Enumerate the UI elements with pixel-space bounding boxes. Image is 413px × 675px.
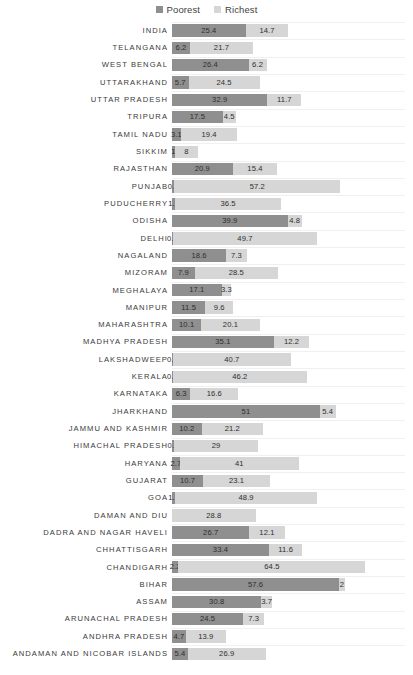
bar-segment-poorest[interactable]: 26.4 [172, 59, 249, 71]
bar-area: 0.346.2 [172, 368, 413, 385]
bar-row: CHANDIGARH2.264.5 [0, 559, 413, 576]
bar-segment-richest[interactable]: 57.2 [174, 180, 340, 192]
bar-segment-richest[interactable]: 5.4 [320, 405, 336, 417]
bar-segment-poorest[interactable]: 39.9 [172, 215, 288, 227]
bar-segment-richest[interactable]: 11.7 [267, 94, 301, 106]
bar-segment-poorest[interactable]: 57.6 [172, 578, 339, 590]
bar-row: GOA1.148.9 [0, 489, 413, 506]
category-label: WEST BENGAL [0, 61, 168, 69]
bar-stack: 10.723.1 [172, 475, 270, 487]
bar-segment-richest[interactable]: 4.8 [288, 215, 302, 227]
bar-row: BIHAR57.62 [0, 576, 413, 593]
bar-area: 33.411.6 [172, 541, 413, 558]
bar-segment-poorest[interactable]: 6.2 [172, 42, 190, 54]
bar-segment-richest[interactable]: 13.9 [186, 630, 226, 642]
bar-row: GUJARAT10.723.1 [0, 472, 413, 489]
bar-segment-poorest[interactable]: 30.8 [172, 596, 261, 608]
bar-stack: 28.8 [172, 509, 256, 521]
bar-segment-richest[interactable]: 24.5 [189, 76, 260, 88]
bar-segment-richest[interactable]: 15.4 [233, 163, 278, 175]
bar-value-richest: 41 [235, 460, 244, 468]
bar-segment-richest[interactable]: 64.5 [178, 561, 365, 573]
bar-segment-richest[interactable]: 48.9 [175, 492, 317, 504]
bar-segment-richest[interactable]: 4.5 [223, 111, 236, 123]
bar-value-poorest: 25.4 [201, 27, 216, 35]
legend-label-poorest: Poorest [167, 4, 200, 15]
bar-area: 18.67.3 [172, 247, 413, 264]
bar-segment-poorest[interactable]: 11.5 [172, 301, 205, 313]
bar-segment-poorest[interactable]: 5.7 [172, 76, 189, 88]
bar-segment-richest[interactable]: 9.6 [205, 301, 233, 313]
bar-segment-poorest[interactable]: 4.7 [172, 630, 186, 642]
category-label: MADHYA PRADESH [0, 338, 168, 346]
bar-segment-richest[interactable]: 2 [339, 578, 345, 590]
bar-value-richest: 15.4 [247, 165, 262, 173]
bar-segment-poorest[interactable]: 24.5 [172, 613, 243, 625]
bar-segment-richest[interactable]: 6.2 [249, 59, 267, 71]
bar-segment-richest[interactable]: 3.3 [222, 284, 232, 296]
bar-segment-richest[interactable]: 21.7 [190, 42, 253, 54]
bar-segment-poorest[interactable]: 3.1 [172, 128, 181, 140]
bar-segment-poorest[interactable]: 51 [172, 405, 320, 417]
bar-segment-richest[interactable]: 20.1 [201, 319, 259, 331]
bar-segment-poorest[interactable]: 6.3 [172, 388, 190, 400]
bar-segment-richest[interactable]: 36.5 [175, 198, 281, 210]
bar-segment-richest[interactable]: 7.3 [243, 613, 264, 625]
bar-segment-poorest[interactable]: 17.5 [172, 111, 223, 123]
category-label: ODISHA [0, 217, 168, 225]
bar-segment-poorest[interactable]: 5.4 [172, 648, 188, 660]
bar-segment-poorest[interactable]: 17.1 [172, 284, 222, 296]
bar-segment-richest[interactable]: 16.6 [190, 388, 238, 400]
bar-value-richest: 9.6 [214, 304, 225, 312]
bar-segment-poorest[interactable]: 20.9 [172, 163, 233, 175]
category-label: LAKSHADWEEP [0, 356, 168, 364]
bar-value-richest: 49.7 [237, 235, 252, 243]
bar-segment-poorest[interactable]: 26.7 [172, 526, 249, 538]
bar-segment-richest[interactable]: 7.3 [226, 249, 247, 261]
category-label: TRIPURA [0, 113, 168, 121]
bar-area: 18 [172, 143, 413, 160]
bar-segment-richest[interactable]: 3.7 [261, 596, 272, 608]
bar-segment-richest[interactable]: 28.8 [172, 509, 256, 521]
bar-segment-poorest[interactable]: 10.2 [172, 423, 202, 435]
bar-stack: 1.136.5 [172, 198, 281, 210]
chart-legend: Poorest Richest [0, 0, 413, 18]
stacked-bar-chart: Poorest Richest INDIA25.414.7TELANGANA6.… [0, 0, 413, 675]
category-label: MIZORAM [0, 269, 168, 277]
bar-value-richest: 28.5 [229, 269, 244, 277]
bar-segment-poorest[interactable]: 33.4 [172, 544, 269, 556]
bar-segment-richest[interactable]: 12.1 [249, 526, 284, 538]
bar-segment-richest[interactable]: 41 [180, 457, 299, 469]
bar-row: INDIA25.414.7 [0, 22, 413, 39]
bar-segment-poorest[interactable]: 10.7 [172, 475, 203, 487]
category-label: UTTAR PRADESH [0, 96, 168, 104]
bar-segment-richest[interactable]: 8 [175, 146, 198, 158]
bar-segment-poorest[interactable]: 35.1 [172, 336, 274, 348]
bar-segment-richest[interactable]: 46.2 [173, 371, 307, 383]
bar-segment-richest[interactable]: 11.6 [269, 544, 303, 556]
bar-row: DAMAN AND DIU28.8 [0, 507, 413, 524]
bar-segment-poorest[interactable]: 25.4 [172, 24, 246, 36]
bar-segment-poorest[interactable]: 7.9 [172, 267, 195, 279]
bar-segment-richest[interactable]: 19.4 [181, 128, 237, 140]
bar-area: 32.911.7 [172, 91, 413, 108]
bar-segment-richest[interactable]: 40.7 [173, 353, 291, 365]
category-label: KERALA [0, 373, 168, 381]
bar-segment-poorest[interactable]: 32.9 [172, 94, 267, 106]
bar-segment-richest[interactable]: 14.7 [246, 24, 289, 36]
bar-value-poorest: 10.7 [180, 477, 195, 485]
bar-segment-richest[interactable]: 49.7 [173, 232, 317, 244]
bar-segment-richest[interactable]: 29 [174, 440, 258, 452]
bar-segment-poorest[interactable]: 2.7 [172, 457, 180, 469]
bar-segment-poorest[interactable]: 18.6 [172, 249, 226, 261]
bar-segment-richest[interactable]: 28.5 [195, 267, 278, 279]
bar-segment-richest[interactable]: 12.2 [274, 336, 309, 348]
bar-segment-richest[interactable]: 21.2 [202, 423, 263, 435]
bar-segment-poorest[interactable]: 10.1 [172, 319, 201, 331]
legend-item-richest: Richest [214, 4, 257, 15]
bar-segment-richest[interactable]: 26.9 [188, 648, 266, 660]
bar-segment-richest[interactable]: 23.1 [203, 475, 270, 487]
bar-row: HARYANA2.741 [0, 455, 413, 472]
bar-value-richest: 40.7 [224, 356, 239, 364]
bar-stack: 2.741 [172, 457, 299, 469]
